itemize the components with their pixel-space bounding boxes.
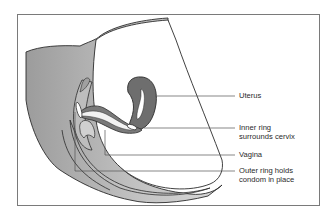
anatomy-illustration (0, 0, 336, 218)
label-outer-ring-line2: condom in place (239, 175, 294, 184)
label-vagina-line1: Vagina (239, 150, 262, 159)
label-outer-ring: Outer ring holds condom in place (239, 166, 294, 185)
label-inner-ring-line1: Inner ring (239, 123, 295, 132)
label-inner-ring: Inner ring surrounds cervix (239, 123, 295, 142)
label-inner-ring-line2: surrounds cervix (239, 132, 295, 141)
label-uterus: Uterus (239, 91, 261, 100)
label-outer-ring-line1: Outer ring holds (239, 166, 294, 175)
label-vagina: Vagina (239, 150, 262, 159)
label-uterus-line1: Uterus (239, 91, 261, 100)
